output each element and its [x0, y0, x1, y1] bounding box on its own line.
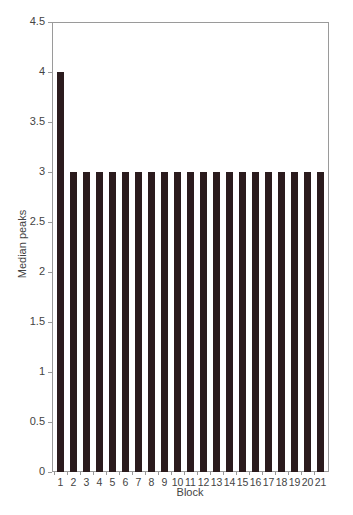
- x-tick: [223, 472, 224, 475]
- y-tick: [48, 272, 52, 273]
- bar-block-5: [109, 172, 117, 472]
- x-tick: [236, 472, 237, 475]
- x-tick: [119, 472, 120, 475]
- x-tick-label: 16: [249, 476, 263, 488]
- y-tick-label: 0.5: [5, 415, 45, 427]
- y-tick-label: 1: [5, 365, 45, 377]
- x-tick: [262, 472, 263, 475]
- x-tick: [80, 472, 81, 475]
- x-tick-label: 21: [314, 476, 328, 488]
- y-tick-label: 4: [5, 65, 45, 77]
- bar-block-10: [174, 172, 182, 472]
- y-tick-label: 1.5: [5, 315, 45, 327]
- x-tick: [93, 472, 94, 475]
- y-tick: [48, 72, 52, 73]
- bar-block-13: [213, 172, 221, 472]
- x-tick-label: 5: [106, 476, 120, 488]
- bar-block-12: [200, 172, 208, 472]
- x-tick: [132, 472, 133, 475]
- x-tick: [145, 472, 146, 475]
- y-tick-label: 4.5: [5, 15, 45, 27]
- bar-block-8: [148, 172, 156, 472]
- y-tick-label: 3: [5, 165, 45, 177]
- bar-block-15: [239, 172, 247, 472]
- bar-block-1: [57, 72, 65, 472]
- bar-block-14: [226, 172, 234, 472]
- x-tick: [106, 472, 107, 475]
- x-tick-label: 15: [236, 476, 250, 488]
- x-tick-label: 7: [132, 476, 146, 488]
- bar-chart: 00.511.522.533.544.5 1234567891011121314…: [0, 0, 353, 515]
- y-tick: [48, 472, 52, 473]
- bar-block-4: [96, 172, 104, 472]
- x-tick-label: 13: [210, 476, 224, 488]
- bar-block-19: [291, 172, 299, 472]
- x-tick: [314, 472, 315, 475]
- bar-block-21: [317, 172, 325, 472]
- x-tick: [171, 472, 172, 475]
- x-tick-label: 20: [301, 476, 315, 488]
- y-tick: [48, 122, 52, 123]
- bar-block-7: [135, 172, 143, 472]
- y-tick-label: 3.5: [5, 115, 45, 127]
- y-tick: [48, 22, 52, 23]
- bar-block-11: [187, 172, 195, 472]
- y-tick-label: 0: [5, 465, 45, 477]
- x-tick: [184, 472, 185, 475]
- x-tick: [249, 472, 250, 475]
- bar-block-20: [304, 172, 312, 472]
- x-tick-label: 3: [80, 476, 94, 488]
- x-tick-label: 14: [223, 476, 237, 488]
- x-tick-label: 17: [262, 476, 276, 488]
- bar-block-6: [122, 172, 130, 472]
- x-tick: [67, 472, 68, 475]
- x-tick: [158, 472, 159, 475]
- x-tick: [54, 472, 55, 475]
- x-tick: [210, 472, 211, 475]
- x-tick: [275, 472, 276, 475]
- bar-block-16: [252, 172, 260, 472]
- bar-block-17: [265, 172, 273, 472]
- x-tick-label: 2: [67, 476, 81, 488]
- y-tick: [48, 422, 52, 423]
- x-tick-label: 8: [145, 476, 159, 488]
- y-tick: [48, 372, 52, 373]
- bar-block-3: [83, 172, 91, 472]
- x-tick-label: 6: [119, 476, 133, 488]
- x-tick: [288, 472, 289, 475]
- x-axis-title: Block: [170, 486, 210, 498]
- bar-block-9: [161, 172, 169, 472]
- y-tick: [48, 322, 52, 323]
- bar-block-18: [278, 172, 286, 472]
- x-tick: [197, 472, 198, 475]
- x-tick: [301, 472, 302, 475]
- y-tick: [48, 222, 52, 223]
- y-tick: [48, 172, 52, 173]
- bar-block-2: [70, 172, 78, 472]
- y-axis-title: Median peaks: [16, 204, 28, 284]
- x-tick-label: 18: [275, 476, 289, 488]
- x-tick-label: 1: [54, 476, 68, 488]
- x-tick-label: 19: [288, 476, 302, 488]
- x-tick-label: 4: [93, 476, 107, 488]
